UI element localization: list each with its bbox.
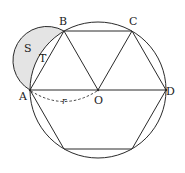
radius-oc (98, 31, 132, 90)
label-a: A (18, 90, 28, 103)
point-o-dot (97, 89, 99, 91)
label-o: O (94, 94, 103, 107)
label-b: B (59, 15, 67, 28)
label-c: C (129, 15, 137, 28)
label-s: S (24, 42, 32, 55)
label-r: r (62, 96, 67, 106)
point-a-dot (29, 89, 31, 91)
label-d: D (166, 85, 175, 98)
hexagon-lune-diagram: A B C D O S T r (0, 0, 185, 173)
label-t: T (39, 52, 47, 65)
radius-ob (64, 31, 98, 90)
